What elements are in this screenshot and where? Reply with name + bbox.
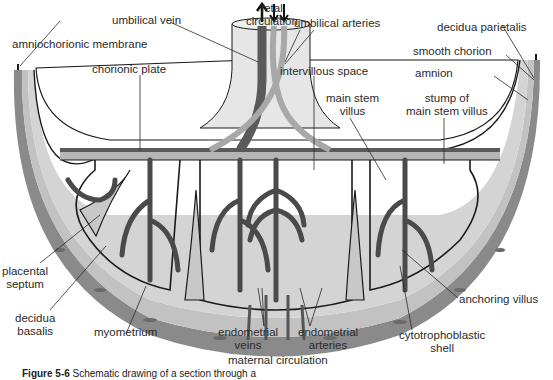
caption-figure-number: Figure 5-6	[22, 368, 70, 379]
label-anchoring-villus: anchoring villus	[459, 293, 538, 306]
label-line: arteries	[298, 339, 358, 352]
label-amnion: amnion	[415, 67, 453, 80]
label-line: main stem	[326, 92, 379, 105]
label-line: shell	[399, 342, 485, 355]
label-umbilical-arteries: umbilical arteries	[294, 17, 380, 30]
label-line: fetal	[246, 2, 298, 15]
label-myometrium: myometrium	[94, 326, 157, 339]
label-line: endometrial	[298, 326, 358, 339]
label-endometrial-veins: endometrial veins	[218, 326, 278, 352]
label-fetal-circulation: fetal circulation	[246, 2, 298, 28]
label-chorionic-plate: chorionic plate	[92, 63, 166, 76]
label-main-stem-villus: main stem villus	[326, 92, 379, 118]
label-placental-septum: placental septum	[2, 265, 48, 291]
label-cytotrophoblastic-shell: cytotrophoblastic shell	[399, 329, 485, 355]
label-line: endometrial	[218, 326, 278, 339]
label-decidua-basalis: decidua basalis	[15, 312, 55, 338]
label-line: cytotrophoblastic	[399, 329, 485, 342]
label-decidua-parietalis: decidua parietalis	[437, 21, 527, 34]
label-stump-of-main-stem-villus: stump of main stem villus	[406, 92, 488, 118]
label-line: circulation	[246, 15, 298, 28]
figure-caption: Figure 5-6 Schematic drawing of a sectio…	[22, 368, 256, 379]
label-endometrial-arteries: endometrial arteries	[298, 326, 358, 352]
label-amniochorionic-membrane: amniochorionic membrane	[12, 38, 148, 51]
label-line: villus	[326, 105, 379, 118]
caption-text: Schematic drawing of a section through a	[73, 368, 256, 379]
label-line: placental	[2, 265, 48, 278]
label-line: basalis	[15, 325, 55, 338]
label-line: main stem villus	[406, 105, 488, 118]
label-smooth-chorion: smooth chorion	[413, 45, 492, 58]
label-line: stump of	[406, 92, 488, 105]
label-umbilical-vein: umbilical vein	[112, 14, 181, 27]
label-line: veins	[218, 339, 278, 352]
label-intervillous-space: intervillous space	[280, 65, 368, 78]
label-line: decidua	[15, 312, 55, 325]
label-line: septum	[2, 278, 48, 291]
label-maternal-circulation: maternal circulation	[228, 354, 328, 367]
